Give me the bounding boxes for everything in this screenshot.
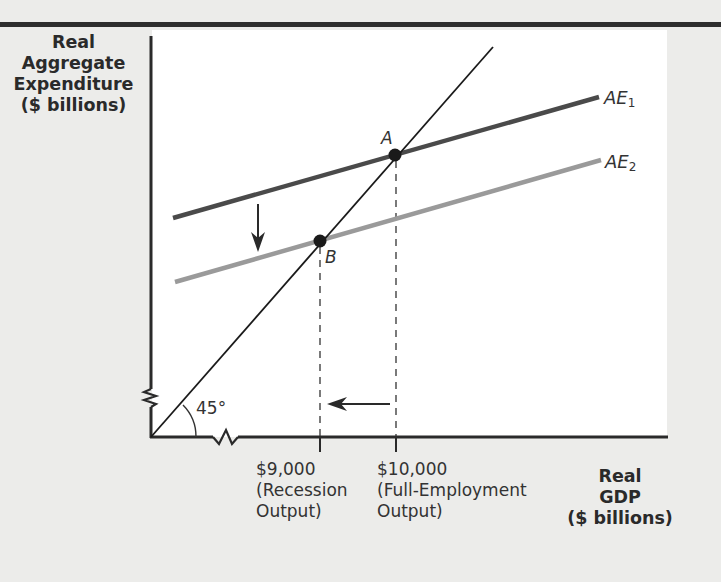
point-b-label: B [325, 247, 337, 267]
x-axis-break [213, 430, 238, 444]
ae1-label-sub: 1 [628, 96, 636, 110]
x-label-line-2: GDP [545, 487, 695, 508]
y-axis-label: Real Aggregate Expenditure ($ billions) [0, 32, 147, 116]
tick-10000-desc-1: (Full-Employment [377, 480, 527, 501]
ae2-line [175, 160, 601, 282]
x-label-line-3: ($ billions) [545, 508, 695, 529]
tick-10000-desc-2: Output) [377, 501, 527, 522]
x-label-line-1: Real [545, 466, 695, 487]
x-axis-label: Real GDP ($ billions) [545, 466, 695, 529]
y-axis-break [144, 389, 156, 407]
tick-9000-value: $9,000 [256, 459, 348, 480]
point-a [389, 149, 402, 162]
y-label-line-1: Real [0, 32, 147, 53]
point-a-label: A [381, 128, 393, 148]
point-b [314, 235, 327, 248]
shift-down-arrow-icon [251, 204, 265, 252]
ae2-label: AE2 [605, 151, 636, 174]
ae2-label-sub: 2 [629, 160, 637, 174]
angle-label: 45° [196, 398, 226, 418]
tick-9000-desc-2: Output) [256, 501, 348, 522]
ae1-label: AE1 [604, 87, 635, 110]
y-label-line-2: Aggregate [0, 53, 147, 74]
ae1-line [173, 97, 599, 218]
tick-9000-desc-1: (Recession [256, 480, 348, 501]
axes [144, 36, 668, 444]
ae2-label-base: AE [605, 151, 629, 172]
tick-label-10000: $10,000 (Full-Employment Output) [377, 459, 527, 522]
angle-arc [183, 405, 196, 437]
y-label-line-4: ($ billions) [0, 95, 147, 116]
output-decrease-arrow-icon [327, 397, 390, 411]
ae1-label-base: AE [604, 87, 628, 108]
tick-10000-value: $10,000 [377, 459, 527, 480]
y-label-line-3: Expenditure [0, 74, 147, 95]
tick-label-9000: $9,000 (Recession Output) [256, 459, 348, 522]
